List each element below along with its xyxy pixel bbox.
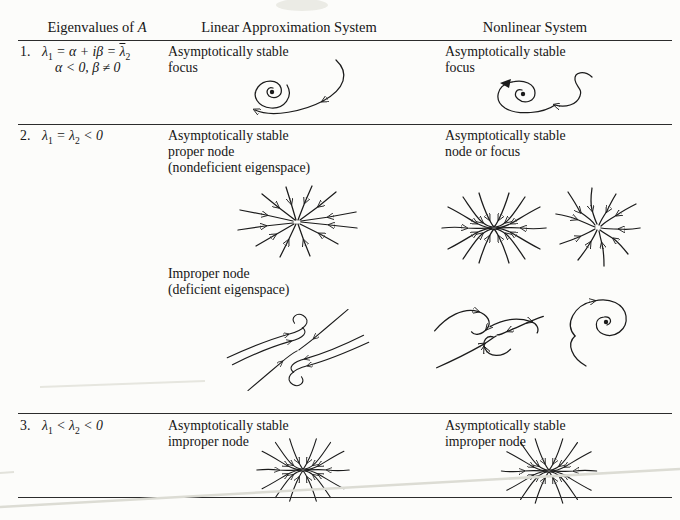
header-rule [18,40,672,41]
nonlinear-node-diagram [438,192,550,264]
proper-node-star-diagram [232,184,362,260]
row1-nonlinear-label-line1: Asymptotically stable [445,44,566,60]
row3-linear-label-line2: improper node [168,434,249,450]
deficient-node-diagram [222,306,374,394]
row3-eigenvalue-expression: λ1 < λ2 < 0 [42,418,103,439]
stable-focus-wavy-spiral-diagram [488,68,603,120]
header-nonlinear-system: Nonlinear System [455,19,615,35]
row2-row3-rule [18,413,672,414]
textbook-table-page: Eigenvalues of A Linear Approximation Sy… [0,0,680,520]
row2-nonlinear-label-line1: Asymptotically stable [445,128,566,144]
row3-nonlinear-label-line1: Asymptotically stable [445,418,566,434]
nonlinear-deficient-spiral-diagram [556,292,642,368]
row3-number: 3. [20,418,30,434]
header-linear-system: Linear Approximation System [175,19,403,35]
bottom-rule [18,497,672,498]
row2-nonlinear-label-line2: node or focus [445,144,520,160]
row1-nonlinear-label-line2: focus [445,60,475,76]
row1-number: 1. [20,44,30,60]
row1-eigenvalue-condition: α < 0, β ≠ 0 [55,60,121,76]
improper-node-diagram-nonlinear [494,438,604,504]
header-eigenvalues-text: Eigenvalues of [47,19,137,35]
row2-improper-label-line1: Improper node [168,266,250,282]
header-eigenvalues: Eigenvalues of A [36,19,158,35]
row2-improper-label-line2: (deficient eigenspace) [168,282,289,298]
row2-number: 2. [20,128,30,144]
nonlinear-deficient-wavy-diagram [428,298,552,378]
row2-linear-label-line1: Asymptotically stable [168,128,289,144]
improper-node-diagram-linear [250,438,356,502]
row1-linear-label-line2: focus [168,60,198,76]
row2-linear-label-line2: proper node [168,144,234,160]
row3-linear-label-line1: Asymptotically stable [168,418,289,434]
stable-focus-spiral-diagram [238,58,358,122]
header-eigenvalues-math-A: A [138,19,147,35]
nonlinear-curved-star-diagram [552,186,644,270]
row2-linear-label-line3: (nondeficient eigenspace) [168,160,310,176]
row2-eigenvalue-expression: λ1 = λ2 < 0 [42,128,103,149]
row1-row2-rule [18,124,672,125]
